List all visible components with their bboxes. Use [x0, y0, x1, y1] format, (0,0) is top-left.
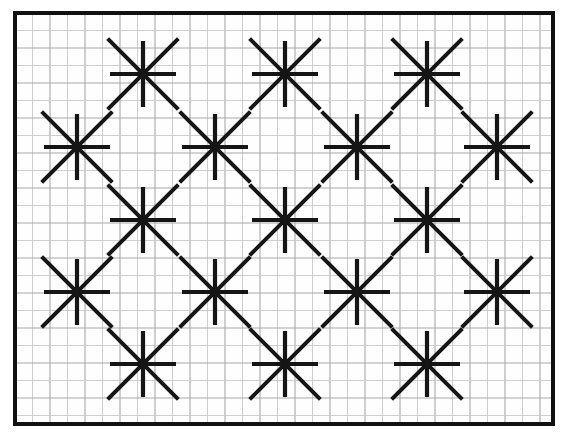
star-glyph [392, 185, 463, 256]
star-glyph [180, 112, 251, 183]
star-glyph [108, 185, 179, 256]
star-glyph [462, 257, 533, 328]
star-glyph [250, 329, 321, 400]
star-glyph [322, 257, 393, 328]
star-glyph [108, 329, 179, 400]
star-glyph [42, 112, 113, 183]
star-glyph [322, 112, 393, 183]
star-glyph [392, 39, 463, 110]
star-glyph [108, 39, 179, 110]
star-lattice-figure [0, 0, 571, 443]
star-glyph [462, 112, 533, 183]
star-glyph [180, 257, 251, 328]
star-glyph [250, 185, 321, 256]
star-glyph [42, 257, 113, 328]
star-glyph [250, 39, 321, 110]
star-glyph [392, 329, 463, 400]
figure-root [0, 0, 571, 443]
